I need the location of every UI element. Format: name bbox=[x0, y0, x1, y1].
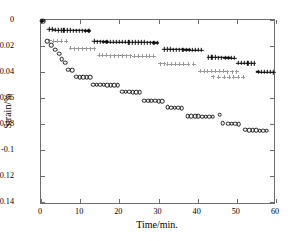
x-tick-label: 20 bbox=[114, 207, 122, 216]
data-point bbox=[241, 75, 245, 79]
y-tick-label: -0.08 bbox=[0, 119, 14, 128]
data-point bbox=[92, 47, 96, 51]
y-tick-label: 0 bbox=[10, 15, 14, 24]
y-tick-label: -0.12 bbox=[0, 171, 14, 180]
data-point bbox=[217, 75, 221, 79]
x-tick-label: 10 bbox=[75, 207, 83, 216]
data-point bbox=[182, 62, 186, 66]
figure-canvas: Strain/% Time/min. 0-0.02-0.04-0.06-0.08… bbox=[0, 0, 292, 241]
x-tick-label: 30 bbox=[153, 207, 161, 216]
plot-area bbox=[40, 19, 275, 204]
data-point bbox=[236, 75, 240, 79]
x-tick-label: 60 bbox=[271, 207, 279, 216]
data-point bbox=[186, 62, 190, 66]
data-point bbox=[222, 75, 226, 79]
series-specimen-plus-faint bbox=[41, 20, 274, 203]
data-point bbox=[235, 70, 239, 74]
x-tick-label: 40 bbox=[193, 207, 201, 216]
y-tick-label: -0.04 bbox=[0, 67, 14, 76]
data-point bbox=[230, 70, 234, 74]
x-tick-top bbox=[276, 20, 277, 24]
data-point bbox=[192, 62, 196, 66]
y-tick-label: -0.14 bbox=[0, 197, 14, 206]
x-tick-label: 0 bbox=[38, 207, 42, 216]
data-point bbox=[152, 54, 156, 58]
x-tick-label: 50 bbox=[232, 207, 240, 216]
x-axis-title: Time/min. bbox=[136, 219, 178, 230]
data-point bbox=[225, 70, 229, 74]
y-tick-label: -0.02 bbox=[0, 41, 14, 50]
y-tick-label: -0.1 bbox=[1, 145, 14, 154]
data-point bbox=[59, 39, 63, 43]
data-point bbox=[227, 75, 231, 79]
data-point bbox=[211, 75, 215, 79]
data-point bbox=[232, 75, 236, 79]
x-tick bbox=[276, 199, 277, 203]
y-tick-label: -0.06 bbox=[0, 93, 14, 102]
data-point bbox=[64, 39, 68, 43]
